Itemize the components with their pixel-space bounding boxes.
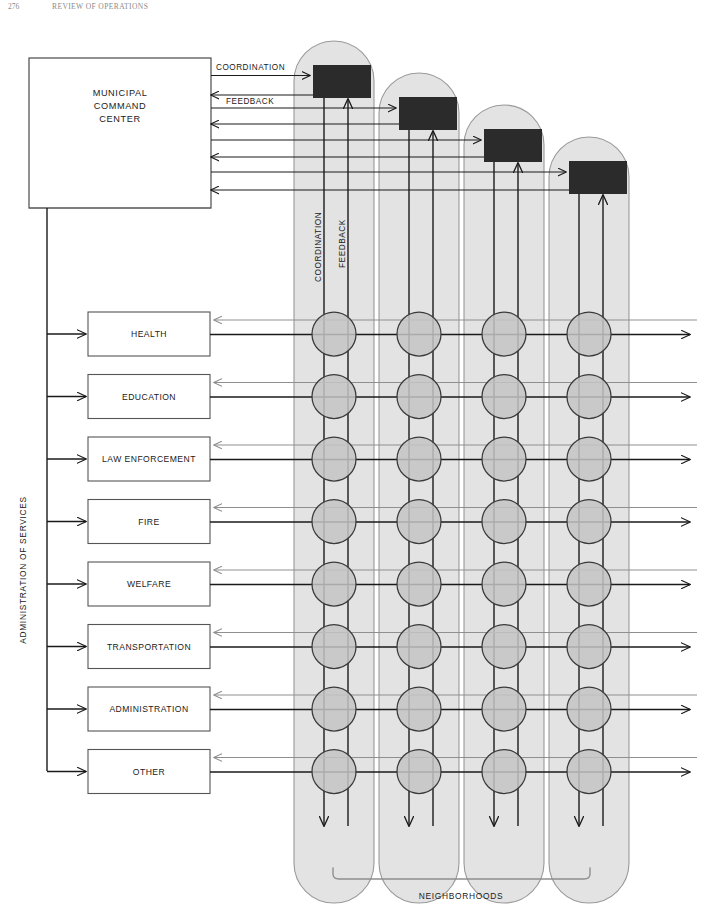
feedback-vertical-label: FEEDBACK	[338, 219, 347, 268]
service-neighborhood-node[interactable]	[312, 437, 356, 481]
service-neighborhood-node[interactable]	[482, 750, 526, 794]
service-neighborhood-node[interactable]	[567, 750, 611, 794]
service-box-label: HEALTH	[131, 329, 167, 339]
neighborhoods-bracket-label: NEIGHBORHOODS	[419, 891, 503, 901]
service-neighborhood-node[interactable]	[482, 625, 526, 669]
service-neighborhood-node[interactable]	[482, 437, 526, 481]
diagram-canvas: 276 REVIEW OF OPERATIONS MUNICIPAL COMMA…	[0, 0, 703, 908]
service-neighborhood-node[interactable]	[397, 437, 441, 481]
service-neighborhood-node[interactable]	[482, 562, 526, 606]
service-neighborhood-node[interactable]	[397, 500, 441, 544]
service-neighborhood-node[interactable]	[312, 750, 356, 794]
service-neighborhood-node[interactable]	[397, 687, 441, 731]
service-box-label: TRANSPORTATION	[107, 642, 191, 652]
service-neighborhood-node[interactable]	[567, 375, 611, 419]
command-center-label-line3: CENTER	[99, 114, 140, 124]
service-neighborhood-node[interactable]	[567, 500, 611, 544]
service-neighborhood-node[interactable]	[397, 750, 441, 794]
service-box-label: OTHER	[133, 767, 165, 777]
service-box-label: FIRE	[138, 517, 159, 527]
service-neighborhood-node[interactable]	[397, 312, 441, 356]
administration-of-services-axis-label: ADMINISTRATION OF SERVICES	[18, 496, 28, 644]
service-neighborhood-node[interactable]	[482, 312, 526, 356]
service-neighborhood-node[interactable]	[567, 625, 611, 669]
service-neighborhood-node[interactable]	[397, 375, 441, 419]
service-neighborhood-node[interactable]	[312, 625, 356, 669]
service-neighborhood-node[interactable]	[312, 687, 356, 731]
coordination-vertical-label: COORDINATION	[314, 212, 323, 282]
service-neighborhood-node[interactable]	[567, 562, 611, 606]
page-folio: 276	[8, 2, 20, 11]
service-neighborhood-node[interactable]	[482, 500, 526, 544]
municipal-command-center-box[interactable]	[29, 58, 211, 208]
page-header-title: REVIEW OF OPERATIONS	[52, 2, 148, 11]
service-box-label: LAW ENFORCEMENT	[102, 454, 196, 464]
service-neighborhood-node[interactable]	[567, 437, 611, 481]
service-neighborhood-node[interactable]	[312, 312, 356, 356]
command-center-label-line2: COMMAND	[94, 101, 147, 111]
service-box-label: EDUCATION	[122, 392, 176, 402]
service-neighborhood-node[interactable]	[397, 625, 441, 669]
neighborhood-box-3[interactable]	[484, 129, 542, 162]
service-neighborhood-node[interactable]	[312, 375, 356, 419]
service-neighborhood-node[interactable]	[567, 687, 611, 731]
service-neighborhood-node[interactable]	[567, 312, 611, 356]
neighborhood-box-2[interactable]	[399, 97, 457, 130]
service-neighborhood-node[interactable]	[312, 562, 356, 606]
command-center-label-line1: MUNICIPAL	[93, 88, 148, 98]
service-neighborhood-node[interactable]	[312, 500, 356, 544]
feedback-horizontal-label: FEEDBACK	[226, 97, 274, 106]
organization-flow-diagram: 276 REVIEW OF OPERATIONS MUNICIPAL COMMA…	[0, 0, 703, 908]
coordination-horizontal-label: COORDINATION	[216, 63, 285, 72]
service-neighborhood-node[interactable]	[482, 687, 526, 731]
service-neighborhood-node[interactable]	[482, 375, 526, 419]
service-box-label: WELFARE	[127, 579, 171, 589]
neighborhood-box-4[interactable]	[569, 161, 627, 194]
service-neighborhood-node[interactable]	[397, 562, 441, 606]
service-box-label: ADMINISTRATION	[109, 704, 188, 714]
neighborhood-box-1[interactable]	[313, 65, 371, 98]
